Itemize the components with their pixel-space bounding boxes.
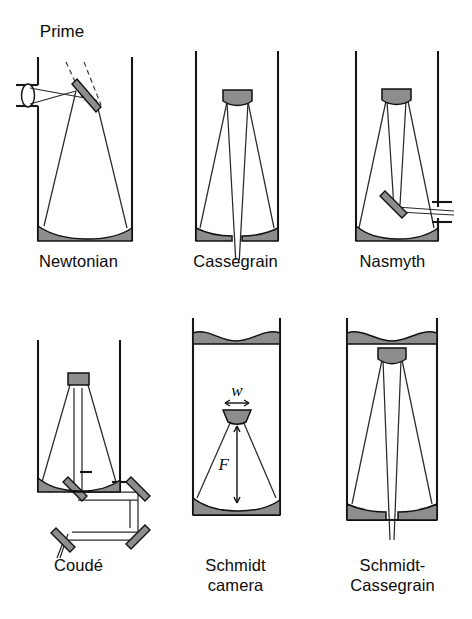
caption-line: Newtonian xyxy=(0,251,157,271)
ray-left-up xyxy=(42,385,70,482)
flat-mirror-upper-left xyxy=(63,477,87,501)
caption-newtonian: Newtonian xyxy=(0,251,157,271)
caption-cassegrain: Cassegrain xyxy=(157,251,314,271)
caption-line: Cassegrain xyxy=(157,251,314,271)
corrector-plate-wavy xyxy=(193,332,280,344)
schmidt-camera-optics-svg: w F xyxy=(157,300,314,565)
ray-secondary-down-right xyxy=(400,101,406,205)
ray-diagonal-to-eyepiece-a xyxy=(30,91,76,104)
newtonian-optics-svg: Prime xyxy=(0,0,157,260)
caption-nasmyth: Nasmyth xyxy=(314,251,471,271)
focal-length-label: F xyxy=(218,455,230,474)
primary-mirror-concave xyxy=(356,226,438,241)
cassegrain-optics-svg xyxy=(157,0,314,260)
ray-right-up xyxy=(243,421,276,498)
panel-cassegrain: Cassegrain xyxy=(157,0,314,300)
caption-line: Coudé xyxy=(0,555,157,575)
secondary-convex-mirror xyxy=(223,90,252,106)
panel-newtonian: Prime Newtonian xyxy=(0,0,157,300)
schmidt-cassegrain-optics-svg xyxy=(314,300,472,565)
caption-coude: Coudé xyxy=(0,555,157,575)
caption-line: Cassegrain xyxy=(314,575,471,595)
primary-mirror-left-half xyxy=(196,228,232,241)
primary-mirror-concave xyxy=(38,226,132,241)
panel-schmidt-cassegrain: Schmidt- Cassegrain xyxy=(314,300,471,600)
secondary-mirror-small xyxy=(68,373,89,385)
secondary-convex-mirror xyxy=(382,89,411,105)
primary-mirror-right-half xyxy=(242,228,278,241)
coude-optics-svg xyxy=(0,300,157,565)
panel-schmidt-camera: w F Schmidt camera xyxy=(157,300,314,600)
caption-schmidt-camera: Schmidt camera xyxy=(157,555,314,595)
prime-focus-label: Prime xyxy=(40,22,84,41)
panel-nasmyth: Nasmyth xyxy=(314,0,471,300)
ray-left-to-diagonal xyxy=(44,91,76,226)
caption-schmidt-cassegrain: Schmidt- Cassegrain xyxy=(314,555,471,595)
ray-right-up xyxy=(88,385,116,482)
ray-right-up xyxy=(402,360,432,504)
ray-left-up xyxy=(352,360,382,504)
primary-mirror-right-half xyxy=(398,504,437,520)
curved-focal-plane-detector xyxy=(223,410,251,424)
secondary-convex-mirror xyxy=(378,348,406,364)
ray-secondary-down-left xyxy=(387,101,394,208)
detector-width-label: w xyxy=(231,381,243,400)
corrector-plate-wavy xyxy=(347,332,437,344)
caption-line: Schmidt xyxy=(157,555,314,575)
telescope-configurations-figure: Prime Newtonian Cassegrain xyxy=(0,0,472,619)
nasmyth-optics-svg xyxy=(314,0,472,260)
ray-left-up xyxy=(359,101,386,228)
caption-line: Nasmyth xyxy=(314,251,471,271)
primary-mirror-left-half xyxy=(347,504,386,520)
ray-right-up xyxy=(248,102,274,228)
caption-line: Schmidt- xyxy=(314,555,471,575)
caption-line: camera xyxy=(157,575,314,595)
panel-coude: Coudé xyxy=(0,300,157,600)
ray-left-up xyxy=(200,102,227,228)
ray-right-to-diagonal xyxy=(96,100,127,228)
